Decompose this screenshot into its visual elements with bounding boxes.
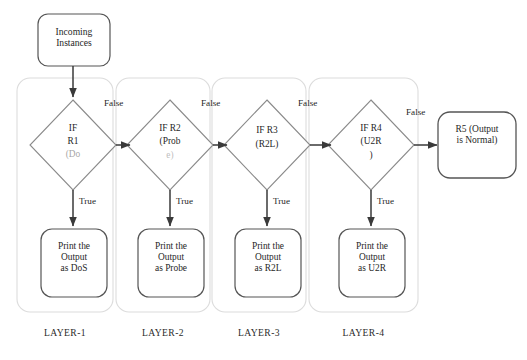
edge-label-true-3: True: [273, 196, 290, 206]
decision-r4-shape: [328, 100, 414, 190]
layer-label-4: LAYER-4: [309, 327, 418, 338]
decision-r3-shape: [224, 100, 310, 190]
decision-r1-shape: [30, 100, 116, 190]
edge-label-true-1: True: [79, 196, 96, 206]
edge-label-false-4: False: [406, 107, 425, 117]
output-box-r2l: [235, 229, 301, 297]
layer-label-2: LAYER-2: [116, 327, 210, 338]
edge-label-false-3: False: [298, 98, 317, 108]
edge-label-false-2: False: [201, 98, 220, 108]
incoming-instances-box: [38, 14, 110, 66]
diagram-canvas: Incoming Instances IF R1 (Do IF R2 (Prob…: [0, 0, 527, 360]
edge-label-true-2: True: [176, 196, 193, 206]
layer-label-1: LAYER-1: [17, 327, 113, 338]
output-box-probe: [138, 229, 204, 297]
layer-label-3: LAYER-3: [212, 327, 306, 338]
output-box-dos: [41, 229, 107, 297]
terminal-box-r5: [438, 112, 516, 178]
edge-label-false-1: False: [104, 98, 123, 108]
decision-r2-shape: [127, 100, 213, 190]
edge-label-true-4: True: [377, 196, 394, 206]
output-box-u2r: [339, 229, 405, 297]
diagram-vector-layer: [0, 0, 527, 360]
